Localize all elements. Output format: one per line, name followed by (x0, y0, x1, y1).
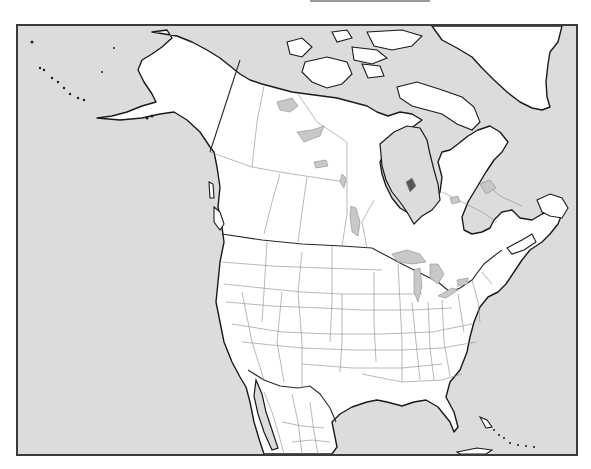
map-frame (16, 24, 578, 456)
haida-gwaii (209, 182, 214, 198)
north-america-outline-map (18, 26, 576, 454)
top-scroll-bar (310, 0, 430, 2)
